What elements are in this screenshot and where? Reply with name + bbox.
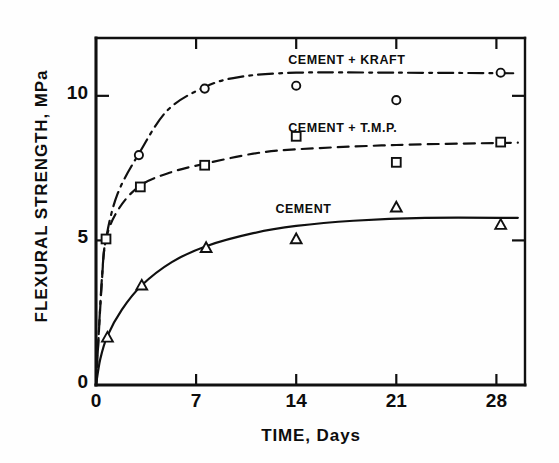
series-label-0: CEMENT + KRAFT <box>288 53 405 67</box>
data-point-circle <box>201 85 209 93</box>
data-point-triangle <box>201 242 212 252</box>
series-1 <box>96 132 518 385</box>
y-tick-label: 0 <box>46 371 88 393</box>
data-point-square <box>200 161 209 170</box>
x-tick-label: 14 <box>274 390 318 412</box>
x-axis-title: TIME, Days <box>96 426 526 446</box>
data-point-triangle <box>102 332 113 342</box>
data-point-square <box>102 235 111 244</box>
series-curve <box>96 218 518 385</box>
series-curve <box>96 143 518 385</box>
data-point-circle <box>392 96 400 104</box>
series-curve <box>96 72 518 385</box>
data-point-circle <box>292 82 300 90</box>
x-tick-label: 0 <box>74 390 118 412</box>
y-tick-label: 5 <box>46 226 88 248</box>
data-point-triangle <box>391 202 402 212</box>
x-tick-label: 21 <box>374 390 418 412</box>
series-2 <box>96 202 518 385</box>
data-point-circle <box>135 151 143 159</box>
data-point-square <box>392 158 401 167</box>
series-label-2: CEMENT <box>275 202 331 216</box>
data-point-square <box>136 183 145 192</box>
data-point-triangle <box>495 219 506 229</box>
data-point-triangle <box>291 234 302 244</box>
series-0 <box>96 69 518 385</box>
data-point-circle <box>497 69 505 77</box>
y-tick-label: 10 <box>46 82 88 104</box>
data-point-square <box>496 138 505 147</box>
chart-figure: FLEXURAL STRENGTH, MPa TIME, Days 071421… <box>0 0 559 463</box>
y-axis-title: FLEXURAL STRENGTH, MPa <box>32 66 52 326</box>
x-tick-label: 28 <box>474 390 518 412</box>
data-series-group <box>96 69 518 385</box>
series-label-1: CEMENT + T.M.P. <box>288 121 397 135</box>
x-tick-label: 7 <box>174 390 218 412</box>
